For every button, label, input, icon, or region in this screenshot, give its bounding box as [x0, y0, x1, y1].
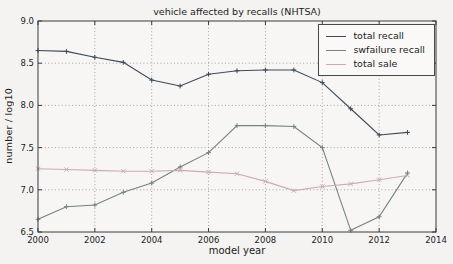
svg-text:2002: 2002: [84, 235, 106, 245]
chart-title: vehicle affected by recalls (NHTSA): [38, 6, 436, 17]
legend-item-total-recall: total recall: [326, 29, 425, 43]
legend: total recall swfailure recall total sale: [318, 24, 435, 76]
legend-label: total sale: [353, 57, 397, 71]
svg-text:8.5: 8.5: [20, 58, 34, 68]
svg-text:2004: 2004: [141, 235, 163, 245]
y-axis-label: number / log10: [3, 88, 14, 164]
svg-text:2008: 2008: [255, 235, 277, 245]
legend-item-total-sale: total sale: [326, 57, 425, 71]
legend-line-sample-total-sale: [326, 64, 346, 65]
svg-text:9.0: 9.0: [20, 16, 34, 26]
svg-text:2012: 2012: [368, 235, 390, 245]
legend-item-swfailure-recall: swfailure recall: [326, 43, 425, 57]
svg-text:7.0: 7.0: [20, 185, 34, 195]
svg-text:7.5: 7.5: [20, 143, 34, 153]
svg-text:2014: 2014: [425, 235, 447, 245]
svg-text:8.0: 8.0: [20, 100, 34, 110]
svg-text:6.5: 6.5: [20, 227, 34, 237]
legend-line-sample-total-recall: [326, 36, 346, 37]
legend-label: total recall: [353, 29, 404, 43]
x-axis-label: model year: [38, 245, 436, 256]
legend-label: swfailure recall: [353, 43, 425, 57]
svg-text:2006: 2006: [198, 235, 220, 245]
recalls-line-chart-figure: 200020022004200620082010201220146.57.07.…: [0, 0, 453, 264]
svg-text:2010: 2010: [311, 235, 333, 245]
legend-line-sample-swfailure-recall: [326, 50, 346, 51]
